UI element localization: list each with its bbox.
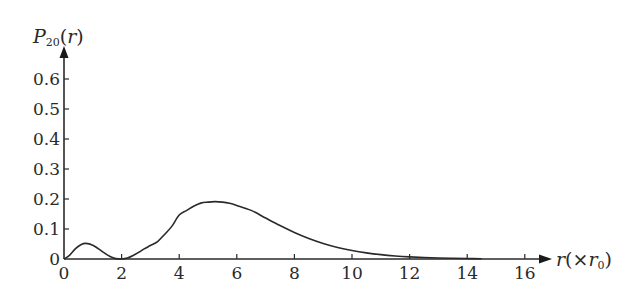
x-tick-label: 8 (289, 263, 300, 283)
x-tick-label: 6 (231, 263, 242, 283)
x-axis-title: r(×r0) (556, 248, 612, 272)
y-tick-label: 0.4 (33, 129, 60, 149)
y-axis: 00.10.20.30.40.50.6 P20(r) (32, 25, 84, 269)
x-axis: 0246810121416 r(×r0) (59, 248, 612, 283)
x-axis-arrow-icon (539, 255, 552, 264)
x-tick-label: 4 (174, 263, 185, 283)
x-tick-label: 0 (59, 263, 70, 283)
x-tick-label: 2 (116, 263, 127, 283)
chart: 00.10.20.30.40.50.6 P20(r) 0246810121416… (0, 0, 643, 301)
y-tick-label: 0.1 (33, 219, 60, 239)
y-tick-label: 0.2 (33, 189, 60, 209)
x-tick-label: 10 (341, 263, 363, 283)
y-axis-arrow-icon (60, 46, 69, 58)
x-tick-label: 14 (456, 263, 478, 283)
plot-area (64, 202, 482, 259)
y-tick-label: 0.6 (33, 69, 60, 89)
series-line-p20 (64, 202, 482, 259)
y-tick-label: 0.5 (33, 99, 60, 119)
y-axis-title: P20(r) (32, 25, 84, 49)
y-tick-label: 0.3 (33, 159, 60, 179)
x-tick-label: 12 (399, 263, 421, 283)
x-tick-label: 16 (514, 263, 536, 283)
